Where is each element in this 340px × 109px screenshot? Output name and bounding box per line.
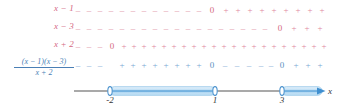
tick-label-3: 3: [272, 96, 292, 105]
tick-label-1: 1: [205, 96, 225, 105]
tick-label-minus-2: -2: [100, 96, 120, 105]
axis-variable-label: x: [328, 87, 332, 96]
sign-chart-diagram: x − 1 x − 3 x + 2 (x − 1)(x − 3) x + 2 –…: [0, 0, 340, 109]
number-line: [0, 0, 340, 109]
